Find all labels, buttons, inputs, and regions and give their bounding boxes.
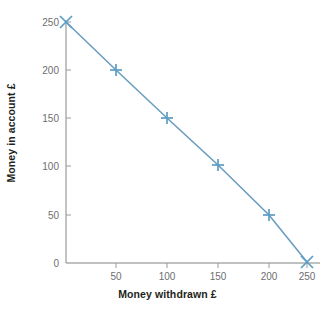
plot-area: 250 200 150 100 50 0 50 100 150 200 250 bbox=[0, 0, 335, 313]
page-text-bleed bbox=[0, 307, 335, 313]
x-axis-title-text: Money withdrawn £ bbox=[118, 288, 217, 300]
x-axis-title: Money withdrawn £ bbox=[0, 288, 335, 300]
x-tick-label: 250 bbox=[299, 271, 316, 282]
data-line bbox=[66, 22, 307, 262]
y-tick-label: 150 bbox=[42, 113, 59, 124]
x-tick-label: 100 bbox=[159, 271, 176, 282]
x-tick-label: 50 bbox=[110, 271, 122, 282]
x-tick-label: 200 bbox=[261, 271, 278, 282]
y-tick-label: 250 bbox=[42, 17, 59, 28]
y-tick-label: 50 bbox=[48, 210, 60, 221]
x-tick-label: 150 bbox=[210, 271, 227, 282]
data-point-markers bbox=[60, 16, 313, 268]
x-tick-marks bbox=[116, 263, 307, 268]
y-tick-label: 100 bbox=[42, 161, 59, 172]
y-tick-label: 200 bbox=[42, 65, 59, 76]
line-chart: Money in account £ 250 200 150 100 bbox=[0, 0, 335, 313]
x-tick-labels: 50 100 150 200 250 bbox=[110, 271, 315, 282]
y-tick-label: 0 bbox=[53, 258, 59, 269]
y-tick-marks bbox=[66, 22, 71, 215]
y-tick-labels: 250 200 150 100 50 0 bbox=[42, 17, 59, 269]
